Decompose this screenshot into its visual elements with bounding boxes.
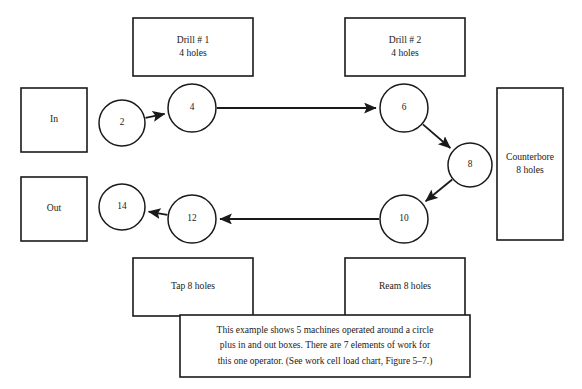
machine-box-drill-2: Drill # 2 4 holes <box>345 18 465 76</box>
node-label: 6 <box>402 102 407 112</box>
work-element-node-14: 14 <box>99 184 145 230</box>
flow-arrow-n2-to-n4 <box>145 114 164 118</box>
node-label: 4 <box>190 102 195 112</box>
machine-box-label-line1: Counterbore <box>506 151 554 162</box>
machine-box-label-line1: Drill # 2 <box>389 34 422 45</box>
work-element-node-10: 10 <box>380 195 428 243</box>
machine-box-tap: Tap 8 holes <box>133 258 253 316</box>
machine-box-label-line1: Drill # 1 <box>177 34 210 45</box>
caption-line-2: plus in and out boxes. There are 7 eleme… <box>220 340 431 350</box>
machine-box-drill-1: Drill # 1 4 holes <box>133 18 253 76</box>
work-element-node-2: 2 <box>99 100 145 146</box>
io-box-out: Out <box>21 177 87 241</box>
work-element-node-4: 4 <box>168 84 216 132</box>
diagram-canvas: Drill # 1 4 holes Drill # 2 4 holes Coun… <box>0 0 582 389</box>
machine-box-ream: Ream 8 holes <box>345 258 465 316</box>
node-label: 12 <box>187 213 197 223</box>
flow-arrow-n8-to-n10 <box>426 180 453 202</box>
work-element-node-12: 12 <box>168 195 216 243</box>
node-label: 14 <box>117 201 127 211</box>
machine-box-label-line2: 8 holes <box>516 164 544 175</box>
work-element-node-8: 8 <box>448 143 492 187</box>
io-box-label: Out <box>47 202 62 213</box>
machine-box-label-line2: 4 holes <box>179 47 207 58</box>
work-cell-diagram: Drill # 1 4 holes Drill # 2 4 holes Coun… <box>0 0 582 389</box>
flow-arrow-n12-to-n14 <box>149 212 168 215</box>
machine-box-label-line1: Tap 8 holes <box>171 280 215 291</box>
caption-line-1: This example shows 5 machines operated a… <box>217 325 434 335</box>
machine-box-counterbore: Counterbore 8 holes <box>497 88 563 240</box>
node-label: 10 <box>399 213 409 223</box>
machine-box-label-line1: Ream 8 holes <box>379 280 431 291</box>
io-box-label: In <box>50 113 58 124</box>
node-label: 8 <box>468 159 473 169</box>
flow-arrow-n6-to-n8 <box>423 124 450 148</box>
machine-box-label-line2: 4 holes <box>391 47 419 58</box>
caption-line-3: this one operator. (See work cell load c… <box>218 356 433 367</box>
work-element-node-6: 6 <box>380 84 428 132</box>
caption-box: This example shows 5 machines operated a… <box>180 315 470 377</box>
node-label: 2 <box>120 117 125 127</box>
io-box-in: In <box>21 88 87 152</box>
